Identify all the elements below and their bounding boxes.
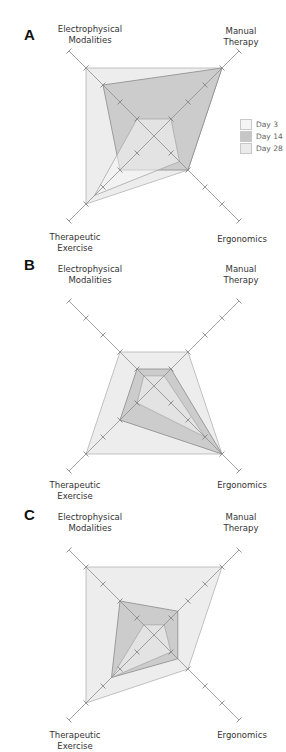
axis-line (154, 136, 239, 221)
radar-chart-b (67, 299, 242, 474)
axis-line (154, 301, 239, 386)
axis-line (154, 635, 239, 720)
radar-chart-a (67, 49, 242, 224)
axis-line (69, 301, 154, 386)
radar-chart-c (67, 548, 242, 723)
